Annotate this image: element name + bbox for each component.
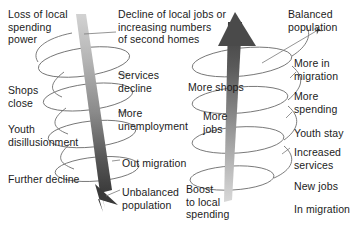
- label-more-jobs: More jobs: [203, 110, 248, 135]
- label-shops-close: Shops close: [8, 84, 78, 109]
- label-more-unemployment: More unemployment: [118, 107, 210, 132]
- label-increased-services: Increased services: [294, 146, 356, 171]
- label-out-migration: Out migration: [122, 157, 207, 170]
- negative-spiral-title: Decline of local jobs or increasing numb…: [118, 8, 240, 46]
- label-loss-of-local-spending-power: Loss of local spending power: [8, 8, 103, 46]
- label-more-spending: More spending: [294, 90, 356, 115]
- spiral-diagram-canvas: Decline of local jobs or increasing numb…: [0, 0, 359, 231]
- label-new-jobs: New jobs: [294, 180, 356, 193]
- label-balanced-population: Balanced population: [288, 8, 358, 33]
- label-services-decline: Services decline: [118, 69, 198, 94]
- label-more-shops: More shops: [188, 81, 266, 94]
- label-youth-stay: Youth stay: [294, 127, 359, 140]
- label-further-decline: Further decline: [8, 173, 118, 186]
- label-youth-disillusionment: Youth disillusionment: [8, 123, 113, 148]
- label-more-in-migration: More in migration: [294, 57, 356, 82]
- label-boost-to-local-spending: Boost to local spending: [186, 183, 246, 221]
- label-in-migration: In migration: [294, 203, 359, 216]
